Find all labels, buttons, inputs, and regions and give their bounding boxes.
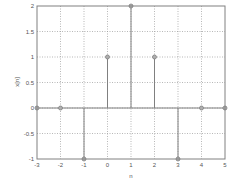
stem-point xyxy=(153,55,157,108)
data-stems xyxy=(35,4,227,161)
stem-point xyxy=(106,55,110,108)
x-tick-label: 2 xyxy=(153,162,157,168)
y-tick-label: 2 xyxy=(31,3,35,9)
stem-point xyxy=(59,106,63,110)
x-axis-label: n xyxy=(129,173,132,179)
x-tick-label: -3 xyxy=(34,162,40,168)
stem-chart: -3-2-1012345 -1-0.500.511.52 n x[n] xyxy=(0,0,240,188)
x-tick-label: 1 xyxy=(129,162,133,168)
x-tick-label: 5 xyxy=(223,162,227,168)
stem-point xyxy=(176,108,180,161)
x-tick-labels: -3-2-1012345 xyxy=(34,162,227,168)
y-tick-label: 0.5 xyxy=(26,80,35,86)
y-tick-label: -1 xyxy=(29,156,35,162)
y-axis-label: x[n] xyxy=(14,77,20,87)
stem-point xyxy=(200,106,204,110)
y-tick-label: 1.5 xyxy=(26,29,35,35)
stem-marker xyxy=(106,55,110,59)
x-tick-label: -1 xyxy=(81,162,87,168)
stem-marker xyxy=(153,55,157,59)
stem-point xyxy=(129,4,133,108)
x-tick-label: 4 xyxy=(200,162,204,168)
y-tick-label: 0 xyxy=(31,105,35,111)
x-tick-label: 0 xyxy=(106,162,110,168)
y-tick-label: 1 xyxy=(31,54,35,60)
y-tick-labels: -1-0.500.511.52 xyxy=(24,3,35,162)
x-tick-label: 3 xyxy=(176,162,180,168)
stem-marker xyxy=(59,106,63,110)
stem-point xyxy=(82,108,86,161)
stem-marker xyxy=(200,106,204,110)
x-tick-label: -2 xyxy=(58,162,64,168)
y-tick-label: -0.5 xyxy=(24,131,35,137)
